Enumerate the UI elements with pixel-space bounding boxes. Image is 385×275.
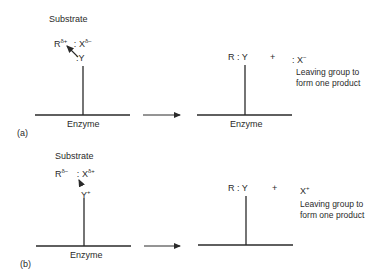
note-b-line1: Leaving group to bbox=[300, 199, 363, 210]
leaving-group-b: X+ bbox=[300, 183, 310, 196]
product-a: R : Y bbox=[228, 52, 248, 62]
note-b-line2: form one product bbox=[300, 210, 364, 221]
enzyme-label-b-left: Enzyme bbox=[70, 250, 103, 260]
panel-label-a: (a) bbox=[17, 128, 28, 138]
r-partial-charge: δ+ bbox=[61, 38, 68, 44]
bond-pair: : bbox=[77, 169, 80, 179]
bond-pair: : bbox=[74, 39, 77, 49]
note-a-line2: form one product bbox=[296, 78, 360, 89]
product-b: R : Y bbox=[228, 183, 248, 193]
nucleophile-b: Y+ bbox=[81, 187, 91, 200]
plus-sign-b: + bbox=[272, 183, 277, 193]
note-a-line1: Leaving group to bbox=[296, 67, 359, 78]
x-partial-charge: δ+ bbox=[88, 168, 95, 174]
enzyme-label-a-right: Enzyme bbox=[230, 119, 263, 129]
plus-sign-a: + bbox=[270, 52, 275, 62]
electron-arrow-b bbox=[79, 180, 82, 186]
r-partial-charge: δ− bbox=[62, 168, 69, 174]
panel-label-b: (b) bbox=[20, 259, 31, 269]
nucleophile-a: :Y bbox=[76, 53, 85, 63]
x-partial-charge: δ− bbox=[85, 38, 92, 44]
enzyme-label-a-left: Enzyme bbox=[67, 119, 100, 129]
substrate-label-a: Substrate bbox=[49, 14, 88, 24]
substrate-formula-a: Rδ+ : Xδ− bbox=[54, 36, 92, 49]
substrate-label-b: Substrate bbox=[55, 151, 94, 161]
substrate-formula-b: Rδ− : Xδ+ bbox=[55, 166, 95, 179]
leaving-group-a: : X− bbox=[292, 52, 307, 65]
